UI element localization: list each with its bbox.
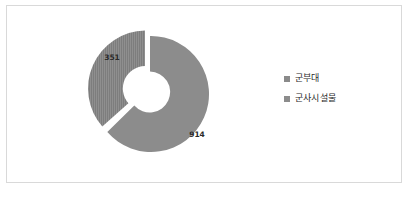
plot-area: 351 914 [7,6,277,182]
legend-label-military-unit: 군부대 [295,74,320,83]
legend-label-military-facility: 군사시설물 [295,94,336,103]
chart-frame: 351 914 군부대 군사시설물 [6,5,402,183]
legend-swatch-icon-military-unit [284,76,290,82]
chart-legend: 군부대 군사시설물 [284,70,396,110]
doughnut-chart: 351 914 [7,6,277,182]
data-label-military-unit: 351 [104,53,120,62]
legend-item-military-facility[interactable]: 군사시설물 [284,90,396,107]
legend-swatch-icon-military-facility [284,96,290,102]
data-label-military-facility: 914 [189,130,205,139]
legend-item-military-unit[interactable]: 군부대 [284,70,396,87]
caption-strip [8,188,308,197]
